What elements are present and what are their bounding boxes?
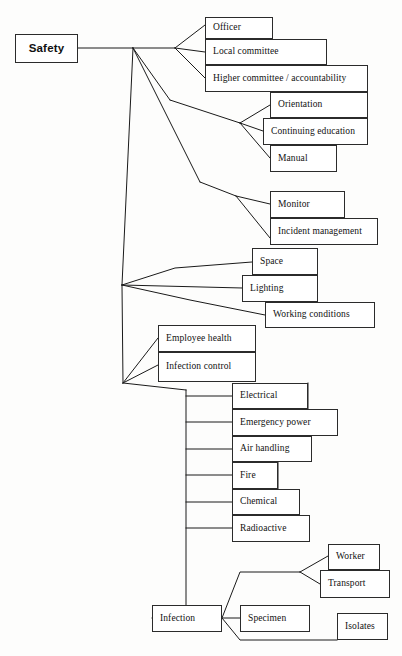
safety-hierarchy-diagram: SafetyOfficerLocal committeeHigher commi… [0, 0, 402, 656]
node-employee_health: Employee health [158, 325, 256, 352]
node-emergency_power: Emergency power [232, 409, 338, 436]
connector-fan-health-infection-ctl [123, 365, 158, 383]
connector-trunk-vertical-main [122, 48, 133, 285]
node-lighting: Lighting [242, 275, 318, 302]
connector-fan-health-to-spine [123, 383, 186, 390]
connector-fan-transport [300, 572, 320, 584]
node-air_handling: Air handling [232, 436, 312, 462]
node-higher_committee: Higher committee / accountability [205, 65, 368, 92]
node-officer: Officer [205, 17, 273, 39]
node-specimen: Specimen [240, 605, 310, 632]
node-space: Space [252, 248, 318, 275]
node-fire: Fire [232, 462, 278, 489]
connector-trunk-to-monitor-branch [133, 48, 200, 182]
connector-fan-committee-local [175, 48, 205, 52]
connector-fan-committee-officer [175, 25, 205, 48]
connector-trunk-lower-vertical [122, 285, 123, 383]
node-monitor: Monitor [270, 191, 345, 218]
node-electrical: Electrical [232, 383, 308, 409]
connector-education-branch-run [170, 100, 240, 123]
node-radioactive: Radioactive [232, 515, 310, 542]
node-manual: Manual [270, 145, 337, 172]
connector-fan-committee-higher [175, 48, 205, 78]
node-transport: Transport [320, 570, 390, 598]
connector-fan-env-space [122, 262, 252, 285]
node-incident_management: Incident management [270, 218, 378, 245]
node-worker: Worker [328, 544, 380, 570]
node-local_committee: Local committee [205, 39, 327, 65]
node-chemical: Chemical [232, 489, 300, 515]
node-working_conditions: Working conditions [265, 302, 375, 328]
node-isolates: Isolates [337, 613, 388, 640]
node-infection: Infection [152, 605, 222, 632]
node-continuing_education: Continuing education [263, 118, 368, 145]
node-orientation: Orientation [270, 92, 368, 118]
connector-fan-env-lighting [122, 285, 242, 288]
connector-fan-health-employee [123, 338, 158, 383]
connector-trunk-to-education-branch [133, 48, 170, 100]
connector-monitor-branch-run [200, 182, 236, 196]
node-infection_control: Infection control [158, 352, 256, 382]
node-root-safety: Safety [15, 34, 78, 63]
